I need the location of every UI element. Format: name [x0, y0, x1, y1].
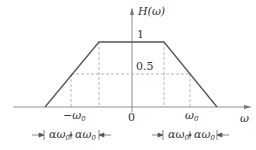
- width-left-b: αω0: [75, 128, 96, 142]
- level-top-label: 1: [137, 28, 144, 41]
- x-axis-arrow-icon: [244, 105, 252, 109]
- y-axis-label: H(ω): [137, 5, 165, 18]
- width-right-a: αω0: [168, 128, 189, 142]
- trapezoid-frequency-response-diagram: H(ω) 1 0.5 0 ω −ω0 ω0 αω0 αω0 αω0 αω0: [0, 0, 256, 150]
- width-annotation-left: [32, 130, 111, 140]
- tick-neg-omega0: −ω0: [63, 109, 86, 123]
- y-axis-arrow-icon: [130, 7, 134, 15]
- origin-label: 0: [128, 111, 135, 124]
- width-right-b: αω0: [194, 128, 215, 142]
- tick-pos-omega0: ω0: [185, 109, 199, 123]
- level-half-label: 0.5: [136, 60, 154, 73]
- width-annotation-right: [152, 130, 229, 140]
- x-axis-label: ω: [240, 112, 249, 125]
- width-left-a: αω0: [49, 128, 70, 142]
